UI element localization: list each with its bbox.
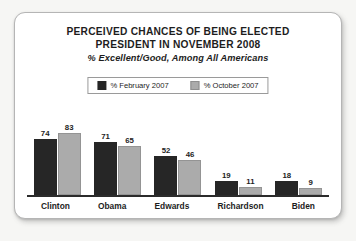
bar[interactable] (275, 181, 298, 195)
bar-wrapper: 52 (154, 109, 177, 195)
category-label: Edwards (154, 201, 189, 211)
category-labels: ClintonObamaEdwardsRichardsonBiden (27, 201, 329, 211)
category-label: Biden (292, 201, 315, 211)
bar-wrapper: 71 (94, 109, 117, 195)
bar-value-label: 71 (101, 132, 110, 141)
bar-value-label: 52 (162, 146, 171, 155)
bar-value-label: 19 (222, 171, 231, 180)
bar-value-label: 65 (125, 136, 134, 145)
legend-entry-october[interactable]: % October 2007 (191, 81, 259, 90)
x-axis-baseline (27, 195, 329, 197)
bar-group: 189 (275, 109, 322, 195)
bar-wrapper: 18 (275, 109, 298, 195)
bar-value-label: 11 (246, 177, 254, 186)
chart-title-block: PERCEIVED CHANCES OF BEING ELECTED PRESI… (15, 25, 341, 63)
gray-swatch-icon (191, 81, 200, 90)
legend-label-february: % February 2007 (110, 81, 168, 90)
bar-value-label: 9 (309, 178, 313, 187)
bar-wrapper: 11 (239, 109, 262, 195)
bar[interactable] (94, 142, 117, 195)
bar-value-label: 83 (65, 123, 74, 132)
bar[interactable] (299, 188, 322, 195)
bar[interactable] (58, 133, 81, 195)
bar-wrapper: 19 (215, 109, 238, 195)
chart-title-line-1: PERCEIVED CHANCES OF BEING ELECTED (15, 25, 341, 38)
legend-entry-february[interactable]: % February 2007 (97, 81, 168, 90)
category-label: Clinton (41, 201, 70, 211)
chart-card: PERCEIVED CHANCES OF BEING ELECTED PRESI… (14, 12, 342, 219)
bar-value-label: 74 (41, 129, 50, 138)
bar[interactable] (118, 146, 141, 195)
bar[interactable] (34, 139, 57, 195)
bar[interactable] (215, 181, 238, 195)
bar-wrapper: 65 (118, 109, 141, 195)
category-label: Obama (98, 201, 126, 211)
bar-group: 1911 (215, 109, 262, 195)
chart-subtitle: % Excellent/Good, Among All Americans (15, 53, 341, 63)
legend-label-october: % October 2007 (204, 81, 259, 90)
screenshot-root: PERCEIVED CHANCES OF BEING ELECTED PRESI… (0, 0, 356, 241)
bar-group: 7165 (94, 109, 141, 195)
dark-swatch-icon (97, 81, 106, 90)
bar-wrapper: 83 (58, 109, 81, 195)
bar-groups: 7483716552461911189 (27, 109, 329, 195)
bar[interactable] (178, 160, 201, 195)
chart-title-line-2: PRESIDENT IN NOVEMBER 2008 (15, 38, 341, 51)
bar-wrapper: 46 (178, 109, 201, 195)
bar-value-label: 18 (282, 171, 291, 180)
category-label: Richardson (218, 201, 264, 211)
bar[interactable] (239, 187, 262, 195)
bar-wrapper: 74 (34, 109, 57, 195)
bar-wrapper: 9 (299, 109, 322, 195)
bar-group: 7483 (34, 109, 81, 195)
bar-value-label: 46 (186, 150, 195, 159)
bar[interactable] (154, 156, 177, 195)
plot-area: 7483716552461911189 (27, 109, 329, 195)
chart-legend: % February 2007 % October 2007 (87, 77, 268, 94)
bar-group: 5246 (154, 109, 201, 195)
